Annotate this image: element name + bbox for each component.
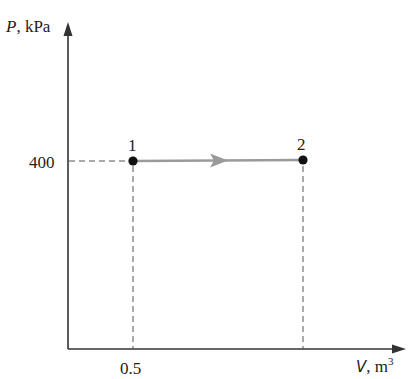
- x-axis-unit: , m: [366, 357, 388, 376]
- point-1-label: 1: [128, 136, 137, 155]
- x-axis-title: V, m3: [356, 355, 394, 376]
- y-axis-arrow-icon: [64, 22, 73, 36]
- y-axis-unit: , kPa: [16, 17, 50, 36]
- y-axis-var: P: [5, 17, 16, 36]
- x-tick-0-5: 0.5: [120, 359, 141, 378]
- y-axis-title: P, kPa: [5, 17, 51, 36]
- x-axis-sup: 3: [388, 355, 394, 367]
- pv-diagram: 1 2 400 0.5 P, kPa V, m3: [0, 0, 411, 379]
- state-point-2: [298, 155, 307, 164]
- point-2-label: 2: [297, 135, 306, 154]
- y-tick-400: 400: [29, 153, 55, 172]
- state-point-1: [128, 156, 137, 165]
- x-axis-arrow-icon: [392, 345, 406, 354]
